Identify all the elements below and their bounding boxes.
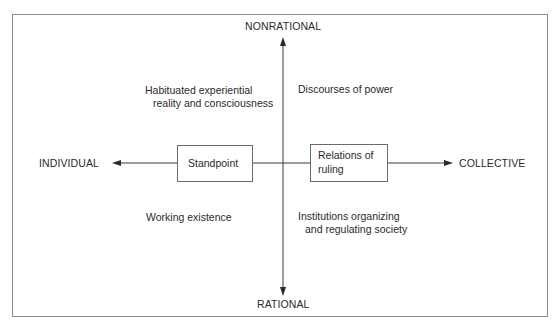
quadrant-top-right: Discourses of power [298, 83, 393, 96]
arrow-down-icon [280, 287, 286, 296]
standpoint-label: Standpoint [188, 157, 238, 170]
relations-label-line-2: ruling [318, 163, 344, 176]
quadrant-bottom-left: Working existence [146, 211, 232, 224]
arrow-up-icon [280, 37, 286, 46]
axis-label-bottom: RATIONAL [257, 298, 310, 311]
quadrant-top-left-line-1: Habituated experiential [145, 84, 252, 97]
relations-of-ruling-box: Relations of ruling [310, 144, 388, 182]
axis-label-right: COLLECTIVE [459, 157, 525, 170]
relations-label-line-1: Relations of [318, 149, 373, 162]
quadrant-bottom-right-line-2: and regulating society [305, 223, 407, 236]
standpoint-box: Standpoint [177, 145, 253, 182]
quadrant-bottom-right-line-1: Institutions organizing [298, 210, 400, 223]
quadrant-top-left-line-2: reality and consciousness [153, 97, 273, 110]
arrow-left-icon [112, 160, 121, 166]
axis-label-top: NONRATIONAL [245, 20, 321, 33]
arrow-right-icon [444, 160, 453, 166]
axis-label-left: INDIVIDUAL [39, 157, 99, 170]
